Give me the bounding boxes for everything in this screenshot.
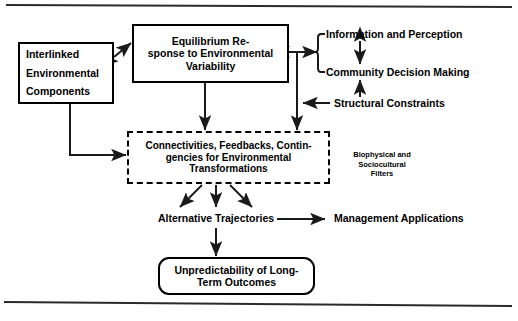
node-label: Interlinked Environmental Components xyxy=(20,45,99,100)
node-label: Structural Constraints xyxy=(334,97,445,109)
node-equilibrium-response[interactable]: Equilibrium Re- sponse to Environmental … xyxy=(132,24,289,83)
connector-connectivities-trajectories-left xyxy=(180,185,202,207)
node-alternative-trajectories[interactable]: Alternative Trajectories xyxy=(147,211,285,226)
node-connectivities-feedbacks-contingencies[interactable]: Connectivities, Feedbacks, Contin- genci… xyxy=(127,131,330,184)
node-label: Community Decision Making xyxy=(326,66,470,78)
node-label: Alternative Trajectories xyxy=(158,212,274,224)
bottom-divider-rule xyxy=(4,301,512,307)
node-label: Management Applications xyxy=(334,212,464,224)
node-information-and-perception[interactable]: Information and Perception xyxy=(326,27,498,42)
connector-interlinked-equilibrium xyxy=(114,43,131,57)
brace-information-community xyxy=(316,34,326,72)
node-community-decision-making[interactable]: Community Decision Making xyxy=(326,65,506,80)
node-label: Unpredictability of Long- Term Outcomes xyxy=(174,264,298,289)
diagram-canvas: Interlinked Environmental Components Equ… xyxy=(0,0,518,321)
node-label: Connectivities, Feedbacks, Contin- genci… xyxy=(145,140,311,175)
node-management-applications[interactable]: Management Applications xyxy=(334,211,486,226)
node-unpredictability-long-term-outcomes[interactable]: Unpredictability of Long- Term Outcomes xyxy=(158,257,315,295)
node-structural-constraints[interactable]: Structural Constraints xyxy=(334,96,479,111)
top-divider-rule xyxy=(6,4,512,8)
filters-text: Biophysical and Sociocultural Filters xyxy=(353,150,411,178)
label-biophysical-sociocultural-filters: Biophysical and Sociocultural Filters xyxy=(339,141,425,179)
node-label: Information and Perception xyxy=(326,28,463,40)
connector-interlinked-connectivities xyxy=(70,104,126,155)
node-interlinked-environmental-components[interactable]: Interlinked Environmental Components xyxy=(18,42,114,104)
node-label: Equilibrium Re- sponse to Environmental … xyxy=(148,35,273,72)
connector-connectivities-trajectories-right xyxy=(230,185,252,207)
